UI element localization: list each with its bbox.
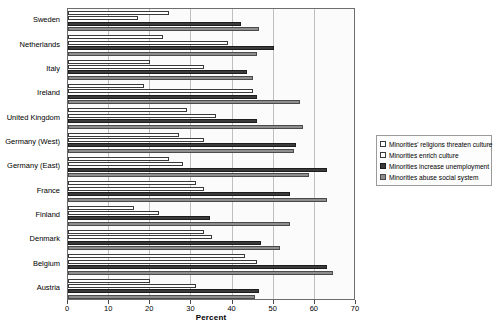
bar-group: [68, 60, 354, 80]
bar-group: [68, 84, 354, 104]
bar-group: [68, 11, 354, 31]
x-tick-label-50: 50: [269, 304, 277, 313]
x-tick-label-30: 30: [186, 304, 194, 313]
bar: [68, 27, 259, 31]
bar: [68, 216, 210, 220]
y-axis-label-sweden: Sweden: [33, 16, 60, 24]
bar: [68, 95, 257, 99]
bar: [68, 119, 257, 123]
x-axis-title: Percent: [0, 313, 422, 322]
legend-item: Minorities increase unemployment: [380, 161, 488, 171]
y-axis-label-germany-west: Germany (West): [5, 138, 60, 146]
bar: [68, 35, 163, 39]
bar-group: [68, 108, 354, 128]
bar: [68, 22, 241, 26]
bar: [68, 265, 327, 269]
bar: [68, 241, 261, 245]
legend-swatch-icon: [380, 163, 386, 169]
bar: [68, 84, 144, 88]
bar: [68, 295, 255, 299]
y-axis-label-france: France: [37, 187, 60, 195]
bar: [68, 16, 138, 20]
bar: [68, 46, 274, 50]
y-axis-label-italy: Italy: [46, 65, 60, 73]
bar: [68, 254, 245, 258]
x-tick-label-0: 0: [65, 304, 69, 313]
bar: [68, 168, 327, 172]
bar: [68, 206, 134, 210]
x-tick-label-10: 10: [104, 304, 112, 313]
legend-item: Minorities' religions threaten culture: [380, 139, 488, 149]
bar: [68, 235, 212, 239]
bar: [68, 162, 183, 166]
y-axis-label-germany-east: Germany (East): [7, 162, 60, 170]
bar-group: [68, 254, 354, 274]
legend-swatch-icon: [380, 152, 386, 158]
bar: [68, 246, 280, 250]
bar: [68, 76, 253, 80]
bar-group: [68, 206, 354, 226]
bar: [68, 138, 204, 142]
legend-label: Minorities increase unemployment: [389, 163, 489, 170]
legend-label: Minorities abuse social system: [389, 174, 478, 181]
bar: [68, 271, 333, 275]
bar: [68, 108, 187, 112]
y-axis-label-finland: Finland: [35, 211, 60, 219]
bar: [68, 181, 196, 185]
bar: [68, 41, 228, 45]
bar: [68, 284, 196, 288]
y-axis-label-united-kingdom: United Kingdom: [7, 114, 60, 122]
legend-label: Minorities enrich culture: [389, 152, 459, 159]
bar: [68, 70, 247, 74]
y-axis-label-austria: Austria: [37, 284, 60, 292]
bar: [68, 289, 259, 293]
bar-chart: SwedenNetherlandsItalyIrelandUnited King…: [0, 0, 494, 336]
bar-group: [68, 181, 354, 201]
bar: [68, 192, 290, 196]
bar: [68, 100, 300, 104]
bar: [68, 52, 257, 56]
legend-label: Minorities' religions threaten culture: [389, 141, 493, 148]
bar: [68, 198, 327, 202]
bar: [68, 260, 257, 264]
x-tick-label-20: 20: [145, 304, 153, 313]
bar-group: [68, 133, 354, 153]
bar-group: [68, 35, 354, 55]
bar: [68, 149, 294, 153]
bar: [68, 133, 179, 137]
x-tick-label-70: 70: [351, 304, 359, 313]
y-axis-labels: SwedenNetherlandsItalyIrelandUnited King…: [0, 8, 64, 300]
x-tick-label-40: 40: [227, 304, 235, 313]
bar: [68, 173, 309, 177]
bar: [68, 11, 169, 15]
y-axis-label-netherlands: Netherlands: [20, 41, 60, 49]
y-axis-label-ireland: Ireland: [37, 89, 60, 97]
y-axis-label-belgium: Belgium: [33, 260, 60, 268]
bar-group: [68, 157, 354, 177]
legend-item: Minorities enrich culture: [380, 150, 488, 160]
bar: [68, 89, 253, 93]
bar: [68, 65, 204, 69]
bar: [68, 143, 296, 147]
bar: [68, 157, 169, 161]
bar: [68, 230, 204, 234]
y-axis-label-denmark: Denmark: [30, 235, 60, 243]
plot-area: [67, 8, 355, 300]
bar: [68, 211, 159, 215]
bar: [68, 114, 216, 118]
legend-item: Minorities abuse social system: [380, 172, 488, 182]
bar: [68, 279, 150, 283]
bar: [68, 125, 303, 129]
bar: [68, 60, 150, 64]
legend-swatch-icon: [380, 174, 386, 180]
legend-swatch-icon: [380, 141, 386, 147]
x-tick-label-60: 60: [310, 304, 318, 313]
bar-group: [68, 279, 354, 299]
bar: [68, 187, 204, 191]
bar: [68, 222, 290, 226]
legend: Minorities' religions threaten cultureMi…: [376, 135, 492, 186]
bar-group: [68, 230, 354, 250]
